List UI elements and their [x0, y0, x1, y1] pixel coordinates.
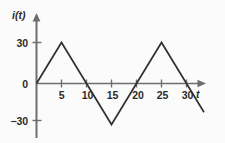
y-axis-label: i(t) [12, 9, 25, 21]
x-tick-label-5: 5 [59, 89, 65, 101]
x-tick-label-10: 10 [82, 89, 93, 101]
x-tick-label-25: 25 [157, 89, 168, 101]
waveform-chart: i(t) t 30 0 −30 5 10 15 20 25 30 [0, 0, 225, 143]
y-axis-arrow-icon [33, 13, 41, 22]
x-axis-arrow-icon [198, 80, 207, 87]
x-tick-label-15: 15 [107, 89, 118, 101]
x-tick-label-30: 30 [182, 89, 193, 101]
x-axis-label: t [196, 88, 200, 100]
y-tick-label-30: 30 [8, 37, 28, 49]
y-tick-label-0: 0 [8, 78, 28, 90]
chart-plot-area [0, 0, 225, 143]
x-tick-label-20: 20 [132, 89, 143, 101]
y-tick-label-neg30: −30 [2, 115, 28, 127]
